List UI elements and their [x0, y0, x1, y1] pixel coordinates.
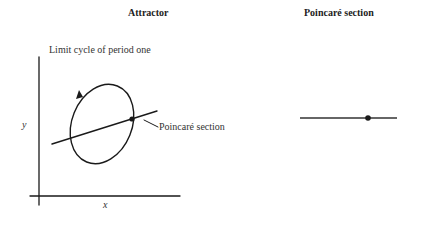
intersection-point [129, 116, 134, 121]
poincare-section-line [52, 111, 157, 144]
limit-cycle-orbit [59, 75, 145, 174]
attractor-plot [30, 57, 180, 205]
section-plot [300, 115, 397, 121]
orbit-direction-arrow-icon [76, 90, 83, 99]
fixed-point [365, 115, 371, 121]
annotation-leader [144, 120, 158, 127]
diagram-canvas [0, 0, 423, 231]
